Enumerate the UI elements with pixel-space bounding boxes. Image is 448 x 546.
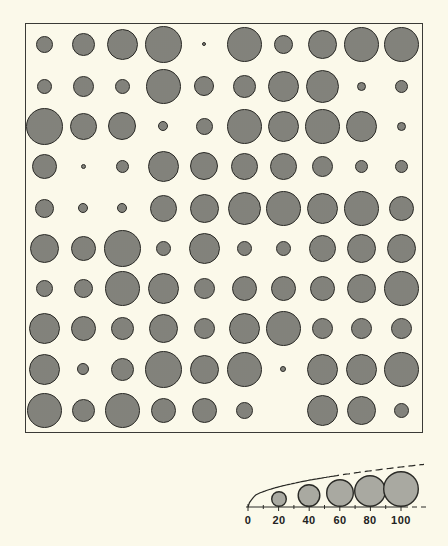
legend-circles xyxy=(272,472,419,507)
symbol-circle xyxy=(81,164,86,169)
symbol-circle xyxy=(105,393,140,428)
symbol-circle xyxy=(231,153,258,180)
symbol-circle xyxy=(27,393,62,428)
legend-circle-100 xyxy=(384,472,419,507)
symbol-circle xyxy=(36,36,53,53)
symbol-circle xyxy=(150,195,177,222)
symbol-circle xyxy=(78,203,88,213)
symbol-circle xyxy=(26,108,63,145)
symbol-circle xyxy=(395,80,408,93)
symbol-circle xyxy=(346,354,377,385)
symbol-circle xyxy=(312,156,333,177)
symbol-circle xyxy=(384,271,419,306)
symbol-circle xyxy=(71,236,96,261)
symbol-circle xyxy=(117,203,127,213)
legend-tick-80: 80 xyxy=(363,514,376,526)
legend-tick-40: 40 xyxy=(302,514,315,526)
symbol-circle xyxy=(347,274,376,303)
symbol-circle xyxy=(266,191,301,226)
symbol-circle xyxy=(312,318,333,339)
legend-circle-40 xyxy=(298,485,320,507)
symbol-circle xyxy=(73,76,94,97)
symbol-circle xyxy=(192,398,217,423)
symbol-circle xyxy=(344,27,379,62)
symbol-circle xyxy=(308,30,337,59)
legend-circle-20 xyxy=(272,492,287,507)
symbol-circle xyxy=(384,352,419,387)
symbol-circle xyxy=(145,351,182,388)
symbol-circle xyxy=(387,234,416,263)
symbol-circle xyxy=(233,75,256,98)
symbol-circle xyxy=(146,69,181,104)
symbol-circle xyxy=(108,112,136,140)
symbol-circle xyxy=(280,366,286,372)
symbol-circle xyxy=(347,234,376,263)
symbol-circle xyxy=(268,71,299,102)
symbol-circle xyxy=(190,152,218,180)
symbol-circle xyxy=(270,153,297,180)
symbol-circle xyxy=(237,241,252,256)
symbol-circle xyxy=(395,160,408,173)
symbol-circle xyxy=(151,398,176,423)
symbol-circle xyxy=(70,113,97,140)
symbol-circle xyxy=(194,318,215,339)
symbol-circle xyxy=(190,194,219,223)
symbol-circle xyxy=(351,318,372,339)
symbol-circle xyxy=(307,193,338,224)
symbol-circle xyxy=(307,354,338,385)
symbol-circle xyxy=(266,311,301,346)
symbol-circle xyxy=(111,317,134,340)
symbol-circle xyxy=(71,316,96,341)
symbol-circle xyxy=(72,399,95,422)
symbol-circle xyxy=(145,26,182,63)
symbol-circle xyxy=(236,402,253,419)
symbol-circle xyxy=(196,118,213,135)
symbol-circle xyxy=(228,192,261,225)
symbol-circle xyxy=(307,395,338,426)
symbol-circle xyxy=(344,191,379,226)
symbol-circle xyxy=(148,273,179,304)
symbol-circle xyxy=(347,396,376,425)
symbol-circle xyxy=(74,279,93,298)
symbol-circle xyxy=(111,358,134,381)
symbol-circle xyxy=(227,109,262,144)
symbol-circle xyxy=(355,160,368,173)
symbol-circle xyxy=(158,121,168,131)
symbol-circle xyxy=(384,27,419,62)
symbol-circle xyxy=(32,154,57,179)
symbol-circle xyxy=(148,151,179,182)
symbol-circle xyxy=(105,271,140,306)
symbol-circle xyxy=(310,276,335,301)
symbol-circle xyxy=(389,196,414,221)
symbol-circle xyxy=(357,82,366,91)
symbol-circle xyxy=(232,276,257,301)
legend-envelope-dashed xyxy=(332,464,424,476)
legend-axis xyxy=(246,504,426,511)
symbol-circle xyxy=(268,111,299,142)
symbol-circle xyxy=(306,70,339,103)
legend-circle-60 xyxy=(327,480,354,507)
symbol-circle xyxy=(227,352,262,387)
symbol-circle xyxy=(309,235,336,262)
symbol-circle xyxy=(305,109,340,144)
symbol-circle xyxy=(29,354,60,385)
symbol-circle xyxy=(104,230,141,267)
symbol-circle xyxy=(202,42,206,46)
symbol-circle xyxy=(229,313,260,344)
symbol-circle xyxy=(190,355,219,384)
symbol-circle xyxy=(77,363,89,375)
symbol-circle xyxy=(194,278,215,299)
symbol-circle xyxy=(346,111,377,142)
symbol-circle xyxy=(30,234,59,263)
symbol-circle xyxy=(276,241,291,256)
symbol-circle xyxy=(37,79,52,94)
symbol-circle xyxy=(271,276,296,301)
symbol-circle xyxy=(72,33,95,56)
legend-tick-20: 20 xyxy=(272,514,285,526)
symbol-circle xyxy=(107,29,138,60)
symbol-circle xyxy=(115,79,130,94)
symbol-circle xyxy=(394,403,409,418)
symbol-circle xyxy=(35,199,54,218)
legend-tick-60: 60 xyxy=(333,514,346,526)
symbol-circle xyxy=(36,280,53,297)
